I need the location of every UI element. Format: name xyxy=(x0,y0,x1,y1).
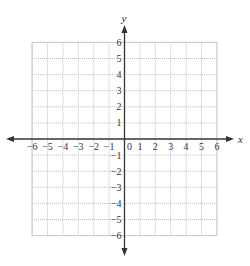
y-tick-label: 1 xyxy=(117,117,122,128)
y-tick-label: −2 xyxy=(111,166,122,177)
x-tick-label: −2 xyxy=(88,141,99,152)
y-tick-label: −4 xyxy=(111,198,122,209)
y-axis-up-arrow-icon xyxy=(122,25,128,33)
x-tick-label: 4 xyxy=(184,141,189,152)
x-axis-left-arrow-icon xyxy=(6,136,14,142)
coordinate-plane: −6−5−4−3−2−10123456 −6−5−4−3−2−1123456 x… xyxy=(0,0,250,266)
y-tick-label: 6 xyxy=(117,37,122,48)
y-tick-label: 5 xyxy=(117,53,122,64)
x-tick-label: −3 xyxy=(73,141,84,152)
x-tick-label: 6 xyxy=(214,141,219,152)
y-tick-label: 2 xyxy=(117,101,122,112)
x-tick-label: 5 xyxy=(199,141,204,152)
y-axis-down-arrow-icon xyxy=(122,248,128,256)
x-tick-label: −4 xyxy=(58,141,69,152)
x-axis-right-arrow-icon xyxy=(226,136,234,142)
x-tick-label: −6 xyxy=(27,141,38,152)
y-tick-label: 3 xyxy=(117,85,122,96)
x-tick-labels: −6−5−4−3−2−10123456 xyxy=(27,141,220,152)
y-tick-label: −3 xyxy=(111,182,122,193)
y-tick-label: −1 xyxy=(111,150,122,161)
y-tick-label: −5 xyxy=(111,214,122,225)
y-tick-label: −6 xyxy=(111,230,122,241)
x-tick-label: 2 xyxy=(153,141,158,152)
x-tick-label: 3 xyxy=(168,141,173,152)
x-tick-label: 1 xyxy=(137,141,142,152)
y-tick-label: 4 xyxy=(117,69,122,80)
x-tick-label: −5 xyxy=(42,141,53,152)
y-axis-label: y xyxy=(121,12,127,24)
x-tick-label: 0 xyxy=(127,141,132,152)
x-axis-label: x xyxy=(237,133,243,145)
